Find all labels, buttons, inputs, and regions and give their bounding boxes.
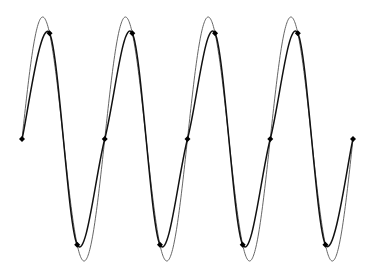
- sample-marker-3: [102, 136, 108, 142]
- sine-sampling-plot: [0, 0, 372, 274]
- sample-marker-9: [267, 136, 273, 142]
- sample-marker-12: [350, 136, 356, 142]
- sample-marker-0: [19, 136, 25, 142]
- sample-markers: [19, 30, 356, 247]
- sample-marker-6: [185, 136, 191, 142]
